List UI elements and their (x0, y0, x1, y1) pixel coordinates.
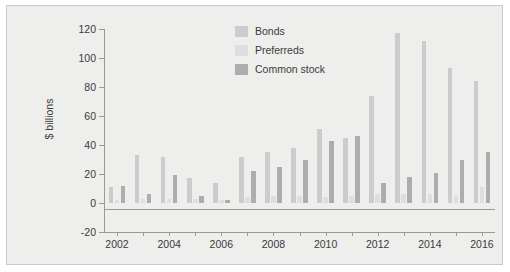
bar (355, 136, 360, 203)
bar (135, 155, 140, 203)
y-axis-tick-label: 20 (84, 168, 96, 180)
y-axis-tick (99, 29, 104, 30)
x-axis-tick (326, 232, 327, 236)
x-axis-tick-label: 2016 (470, 238, 493, 250)
y-axis-tick (99, 87, 104, 88)
bar (193, 199, 198, 203)
bar (375, 194, 380, 203)
y-axis-tick-label: 100 (78, 52, 96, 64)
x-axis-tick (195, 232, 196, 236)
bar (167, 199, 172, 203)
bar (401, 194, 406, 203)
plot-area: -200204060801001202002200420062008201020… (104, 29, 495, 209)
y-axis-tick (99, 58, 104, 59)
x-axis-tick (404, 232, 405, 236)
bar (199, 196, 204, 203)
bar (291, 148, 296, 203)
y-axis-tick-label: 40 (84, 139, 96, 151)
bar (407, 177, 412, 203)
bar (239, 157, 244, 203)
x-axis-tick-label: 2002 (105, 238, 128, 250)
bar-group (161, 29, 178, 232)
bar (381, 183, 386, 203)
x-axis-tick-label: 2010 (314, 238, 337, 250)
y-axis-tick-label: 60 (84, 110, 96, 122)
bar (486, 152, 491, 203)
bar-group (291, 29, 308, 232)
bar-group (369, 29, 386, 232)
x-axis-tick (221, 232, 222, 236)
bar (349, 196, 354, 203)
bar (265, 152, 270, 203)
bar-group (474, 29, 491, 232)
bar (434, 173, 439, 203)
bar (323, 197, 328, 203)
y-axis-tick (99, 203, 104, 204)
y-axis-tick-label: 80 (84, 81, 96, 93)
bar-group (135, 29, 152, 232)
chart-frame: $ billions BondsPreferredsCommon stock -… (6, 5, 503, 265)
bar-group (395, 29, 412, 232)
bar (225, 200, 230, 203)
bar (213, 183, 218, 203)
bar (219, 200, 224, 203)
y-axis-tick (99, 232, 104, 233)
bar-group (265, 29, 282, 232)
x-axis-tick-label: 2014 (418, 238, 441, 250)
bar (303, 160, 308, 204)
bar (121, 186, 126, 203)
bar (480, 187, 485, 203)
bar (448, 68, 453, 203)
bar (428, 194, 433, 203)
bar-group (213, 29, 230, 232)
bar-group (422, 29, 439, 232)
bar-group (448, 29, 465, 232)
bar (147, 194, 152, 203)
bar (329, 141, 334, 203)
bar-group (109, 29, 126, 232)
bar (271, 196, 276, 203)
x-axis-tick-label: 2006 (210, 238, 233, 250)
bar (369, 96, 374, 203)
x-axis-tick (117, 232, 118, 236)
x-axis-tick (430, 232, 431, 236)
bar-group (317, 29, 334, 232)
bar (474, 81, 479, 203)
bar (187, 178, 192, 203)
bar-group (239, 29, 256, 232)
bar (251, 171, 256, 203)
bar (109, 187, 114, 203)
bar (115, 200, 120, 203)
y-axis-tick (99, 116, 104, 117)
bar (297, 196, 302, 203)
bar (245, 197, 250, 203)
x-axis-tick (482, 232, 483, 236)
bar (277, 167, 282, 203)
bar (454, 196, 459, 203)
y-axis-line (104, 29, 105, 232)
x-axis-tick (247, 232, 248, 236)
x-axis-tick-label: 2004 (157, 238, 180, 250)
y-axis-tick-label: 0 (90, 197, 96, 209)
x-axis-tick (143, 232, 144, 236)
x-axis-tick (273, 232, 274, 236)
x-axis-tick (352, 232, 353, 236)
x-axis-tick-label: 2012 (366, 238, 389, 250)
y-axis-tick (99, 174, 104, 175)
bar (173, 175, 178, 203)
y-axis-tick-label: 120 (78, 23, 96, 35)
y-axis-tick-label: -20 (81, 226, 96, 238)
bar-group (187, 29, 204, 232)
bar (317, 129, 322, 203)
y-axis-title: $ billions (43, 99, 55, 140)
bar (161, 157, 166, 203)
x-axis-tick-label: 2008 (262, 238, 285, 250)
x-axis-tick (300, 232, 301, 236)
bar (460, 160, 465, 204)
bar-group (343, 29, 360, 232)
bar (395, 33, 400, 203)
x-axis-tick (456, 232, 457, 236)
x-axis-tick (169, 232, 170, 236)
bar (343, 138, 348, 203)
bar (422, 41, 427, 203)
